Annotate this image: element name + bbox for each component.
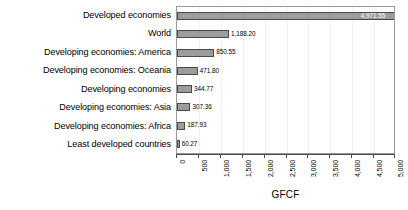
bar-value-label: 60.27 (182, 141, 198, 147)
x-tick-label: 3,000 (310, 160, 317, 177)
bar (177, 67, 198, 75)
bar-row: 471.80 (177, 62, 394, 80)
category-label: Developing economies: Africa (0, 117, 174, 136)
category-label: Developing economies: Asia (0, 99, 174, 118)
x-tick (329, 154, 330, 158)
bar-row: 307.36 (177, 98, 394, 116)
bar-value-label: 4,971.55 (361, 13, 385, 19)
x-tick (242, 154, 243, 158)
category-label: Developing economies (0, 80, 174, 99)
bar-value-label: 307.36 (192, 104, 211, 110)
category-label: Developing economies: Oceania (0, 62, 174, 81)
bar-row: 187.93 (177, 117, 394, 135)
x-tick (176, 154, 177, 158)
x-tick-label: 500 (201, 160, 208, 171)
x-tick-label: 1,500 (245, 160, 252, 177)
bar-value-label: 344.77 (194, 86, 213, 92)
bar (177, 140, 180, 148)
bar-row: 1,188.20 (177, 25, 394, 43)
bar-value-label: 1,188.20 (231, 31, 255, 37)
category-label: Developing economies: America (0, 43, 174, 62)
bar-value-label: 187.93 (187, 122, 206, 128)
bar-value-label: 850.55 (216, 49, 235, 55)
bar (177, 49, 214, 57)
x-axis-title: GFCF (176, 190, 395, 200)
x-tick-label: 4,500 (376, 160, 383, 177)
x-tick (286, 154, 287, 158)
x-tick (351, 154, 352, 158)
x-tick (307, 154, 308, 158)
x-tick-label: 5,000 (397, 160, 404, 177)
x-tick-label: 1,000 (223, 160, 230, 177)
bar-row: 60.27 (177, 135, 394, 153)
x-tick (220, 154, 221, 158)
x-tick-label: 0 (179, 160, 186, 164)
x-tick-label: 3,500 (332, 160, 339, 177)
category-label: Developed economies (0, 6, 174, 25)
category-axis: Developed economiesWorldDeveloping econo… (0, 6, 174, 154)
bar (177, 30, 229, 38)
x-tick-label: 2,000 (267, 160, 274, 177)
bar (177, 85, 192, 93)
x-tick (373, 154, 374, 158)
x-tick (394, 154, 395, 158)
x-tick (264, 154, 265, 158)
x-tick-label: 4,000 (354, 160, 361, 177)
bar (177, 122, 185, 130)
plot-area: 4,971.551,188.20850.55471.80344.77307.36… (176, 6, 395, 154)
bar (177, 103, 190, 111)
bar-row: 4,971.55 (177, 7, 394, 25)
x-tick-label: 2,500 (289, 160, 296, 177)
category-label: Least developed countries (0, 136, 174, 155)
bar-row: 344.77 (177, 80, 394, 98)
x-tick (198, 154, 199, 158)
bar-series: 4,971.551,188.20850.55471.80344.77307.36… (177, 7, 394, 153)
bar-chart: Developed economiesWorldDeveloping econo… (0, 0, 408, 210)
bar-row: 850.55 (177, 44, 394, 62)
category-label: World (0, 25, 174, 44)
bar-value-label: 471.80 (200, 68, 219, 74)
